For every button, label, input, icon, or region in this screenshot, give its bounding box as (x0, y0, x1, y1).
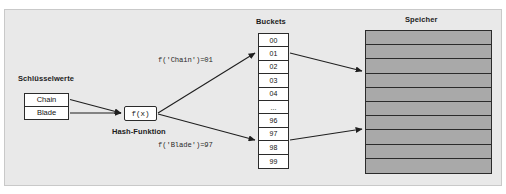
bucket-cell[interactable]: 00 (259, 34, 288, 47)
arrow-bucket-01-to-memory (290, 53, 362, 71)
arrow-hash-to-bucket-97 (158, 114, 255, 140)
arrow-bucket-97-to-memory (290, 129, 362, 140)
speicher-block (365, 30, 492, 174)
memory-row (366, 74, 491, 88)
hash-funktion-label: Hash-Funktion (112, 127, 166, 136)
memory-row (366, 116, 491, 130)
memory-row (366, 31, 491, 45)
bucket-cell: ... (259, 101, 288, 114)
bucket-cell[interactable]: 01 (259, 47, 288, 60)
formula-blade: f('Blade')=97 (158, 141, 213, 149)
bucket-cell[interactable]: 03 (259, 74, 288, 87)
memory-row (366, 145, 491, 159)
schluesselwerte-label: Schlüsselwerte (18, 74, 74, 83)
memory-row (366, 159, 491, 173)
memory-row (366, 45, 491, 59)
bucket-cell[interactable]: 04 (259, 88, 288, 101)
diagram-canvas: Schlüsselwerte Buckets Speicher Hash-Fun… (0, 0, 506, 194)
memory-row (366, 102, 491, 116)
key-box-chain[interactable]: Chain (24, 93, 69, 107)
buckets-column: 00 01 02 03 04 ... 96 97 98 99 (258, 33, 289, 169)
key-box-blade[interactable]: Blade (24, 106, 69, 120)
arrow-chain-to-hash (70, 100, 121, 114)
buckets-label: Buckets (256, 17, 286, 26)
hash-function-box[interactable]: f(x) (124, 106, 157, 121)
memory-row (366, 59, 491, 73)
memory-row (366, 130, 491, 144)
bucket-cell[interactable]: 98 (259, 141, 288, 154)
bucket-cell[interactable]: 96 (259, 114, 288, 127)
formula-chain: f('Chain')=01 (158, 56, 213, 64)
speicher-label: Speicher (405, 15, 437, 24)
memory-row (366, 88, 491, 102)
bucket-cell[interactable]: 99 (259, 155, 288, 168)
bucket-cell[interactable]: 97 (259, 128, 288, 141)
bucket-cell[interactable]: 02 (259, 61, 288, 74)
